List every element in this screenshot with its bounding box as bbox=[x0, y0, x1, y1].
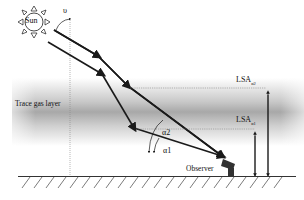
alpha1-label: α1 bbox=[163, 146, 171, 155]
sun-label: Sun bbox=[25, 16, 37, 25]
zenith-angle-label: υ bbox=[63, 6, 67, 15]
lsa2-label-main: LSA bbox=[236, 75, 251, 84]
ground-hatching bbox=[22, 177, 282, 188]
zenith-angle-arc bbox=[56, 19, 70, 30]
lsa1-label-main: LSA bbox=[236, 115, 251, 124]
lsa2-label: LSAα2 bbox=[236, 75, 256, 86]
alpha2-label: α2 bbox=[162, 128, 170, 137]
sun-ray-lower bbox=[48, 42, 102, 74]
lsa2-label-sub: α2 bbox=[251, 81, 256, 86]
lsa1-label: LSAα1 bbox=[236, 115, 256, 126]
observer-instrument-icon bbox=[221, 159, 235, 177]
observer-label: Observer bbox=[186, 164, 214, 173]
lsa1-label-sub: α1 bbox=[251, 121, 256, 126]
trace-gas-layer-label: Trace gas layer bbox=[15, 99, 61, 108]
